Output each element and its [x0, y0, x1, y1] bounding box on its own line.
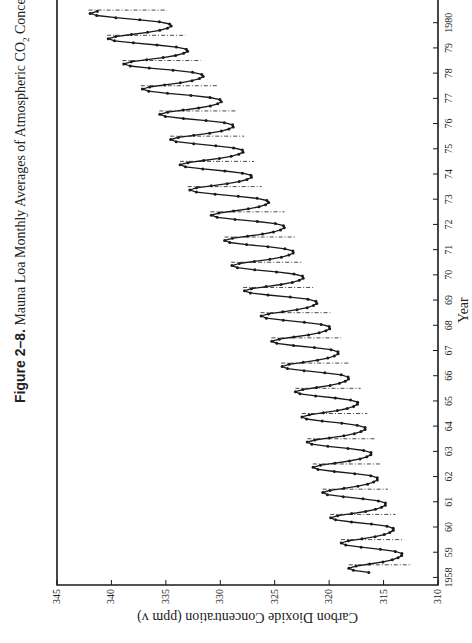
rotated-figure: Figure 2–8. Mauna Loa Monthly Averages o… — [0, 0, 472, 643]
data-point — [253, 268, 256, 271]
data-point — [163, 83, 166, 86]
data-point — [191, 79, 194, 82]
data-point — [326, 357, 329, 360]
data-point — [158, 113, 161, 116]
x-tick-label: 68 — [443, 320, 454, 330]
data-point — [386, 525, 389, 528]
data-point — [326, 493, 329, 496]
x-tick-label: 1980 — [443, 13, 454, 33]
data-point — [350, 512, 353, 515]
data-point — [329, 489, 332, 492]
data-point — [266, 245, 269, 248]
data-point — [361, 537, 364, 540]
data-point — [233, 218, 236, 221]
data-point — [214, 144, 217, 147]
data-point — [334, 518, 337, 521]
data-point — [230, 264, 233, 267]
data-point — [164, 115, 167, 118]
data-point — [223, 239, 226, 242]
data-point — [379, 548, 382, 551]
data-point — [268, 258, 271, 261]
data-point — [231, 237, 234, 240]
x-axis-ticks: 1958596061626364656667686970717273747576… — [433, 13, 454, 588]
x-tick-label: 77 — [443, 93, 454, 103]
data-point — [360, 546, 363, 549]
data-point — [129, 64, 132, 67]
data-point — [356, 485, 359, 488]
data-point — [392, 527, 395, 530]
data-point — [197, 107, 200, 110]
data-point — [300, 415, 303, 418]
data-point — [299, 392, 302, 395]
data-point — [361, 497, 364, 500]
data-point — [89, 12, 92, 15]
data-point — [380, 506, 383, 509]
data-point — [201, 167, 204, 170]
data-point — [107, 37, 110, 40]
data-point — [138, 18, 141, 21]
data-point — [353, 432, 356, 435]
data-point — [305, 417, 308, 420]
data-point — [218, 98, 221, 101]
data-point — [223, 170, 226, 173]
data-point — [208, 132, 211, 135]
data-point — [340, 541, 343, 544]
data-point — [209, 104, 212, 107]
data-point — [320, 323, 323, 326]
x-tick-label: 71 — [443, 245, 454, 255]
data-point — [336, 350, 339, 353]
data-point — [333, 462, 336, 465]
data-point — [329, 516, 332, 519]
data-point — [189, 94, 192, 97]
data-point — [231, 123, 234, 126]
data-point — [218, 157, 221, 160]
y-tick-label: 340 — [105, 589, 116, 604]
data-point — [338, 382, 341, 385]
data-point — [158, 20, 161, 23]
data-point — [208, 96, 211, 99]
data-point — [330, 348, 333, 351]
data-point — [214, 193, 217, 196]
data-point — [353, 472, 356, 475]
data-point — [310, 443, 313, 446]
data-point — [356, 401, 359, 404]
data-point — [147, 90, 150, 93]
data-point — [372, 481, 375, 484]
data-point — [172, 69, 175, 72]
data-point — [249, 291, 252, 294]
data-point — [346, 407, 349, 410]
data-point — [306, 441, 309, 444]
data-point — [175, 140, 178, 143]
data-point — [360, 430, 363, 433]
data-point — [347, 375, 350, 378]
data-point — [267, 294, 270, 297]
data-point — [270, 340, 273, 343]
data-point — [186, 161, 189, 164]
data-point — [253, 260, 256, 263]
data-point — [96, 10, 99, 13]
data-point — [292, 273, 295, 276]
data-point — [376, 476, 379, 479]
data-point — [272, 230, 275, 233]
data-point — [200, 73, 203, 76]
data-point — [329, 384, 332, 387]
data-point — [333, 470, 336, 473]
data-point — [306, 298, 309, 301]
data-point — [301, 388, 304, 391]
data-point — [243, 289, 246, 292]
data-point — [321, 420, 324, 423]
data-point — [340, 373, 343, 376]
data-point — [358, 457, 361, 460]
data-point — [282, 224, 285, 227]
data-point — [391, 558, 394, 561]
data-point — [349, 399, 352, 402]
data-point — [168, 22, 171, 25]
data-point — [348, 460, 351, 463]
data-point — [166, 111, 169, 114]
data-point — [179, 163, 182, 166]
data-point — [217, 212, 220, 215]
data-point — [355, 565, 358, 568]
data-point — [326, 445, 329, 448]
data-point — [313, 439, 316, 442]
data-point — [179, 81, 182, 84]
